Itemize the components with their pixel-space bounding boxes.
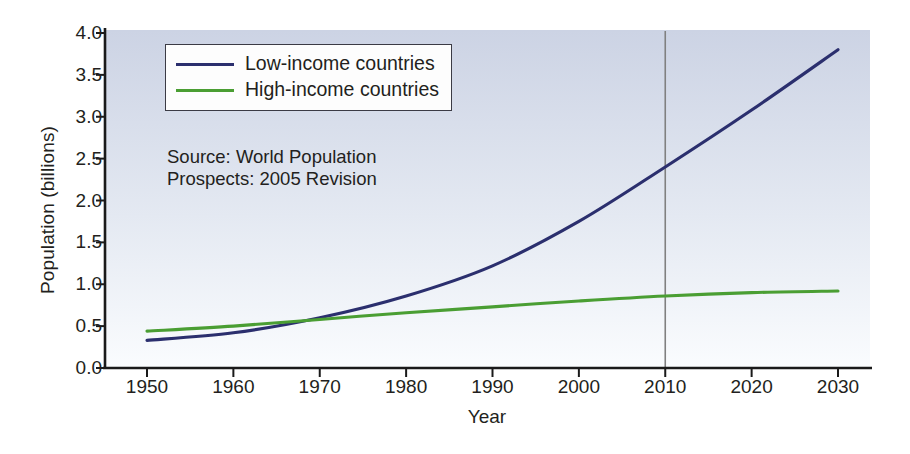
y-tick-label: 0.0 <box>42 357 102 379</box>
population-line-chart: 0.00.51.01.52.02.53.03.54.0 195019601970… <box>0 0 910 454</box>
x-tick-label: 2030 <box>798 376 878 398</box>
legend-swatch-high-income <box>176 89 234 92</box>
legend-label-low-income: Low-income countries <box>245 54 435 74</box>
legend-swatch-low-income <box>176 63 234 66</box>
x-tick-label: 1970 <box>280 376 360 398</box>
y-tick-label: 4.0 <box>42 22 102 44</box>
x-tick-label: 2000 <box>539 376 619 398</box>
x-tick-label: 1960 <box>193 376 273 398</box>
source-note: Source: World Population Prospects: 2005… <box>167 146 377 190</box>
x-tick-label: 1950 <box>107 376 187 398</box>
x-tick-label: 1980 <box>366 376 446 398</box>
chart-legend: Low-income countries High-income countri… <box>165 44 452 111</box>
legend-item-high-income: High-income countries <box>176 77 439 103</box>
x-axis-title: Year <box>104 406 870 428</box>
x-tick-label: 2020 <box>712 376 792 398</box>
y-axis-title: Population (billions) <box>37 70 59 350</box>
legend-item-low-income: Low-income countries <box>176 51 439 77</box>
x-tick-label: 2010 <box>625 376 705 398</box>
x-tick-label: 1990 <box>453 376 533 398</box>
legend-label-high-income: High-income countries <box>245 80 439 100</box>
